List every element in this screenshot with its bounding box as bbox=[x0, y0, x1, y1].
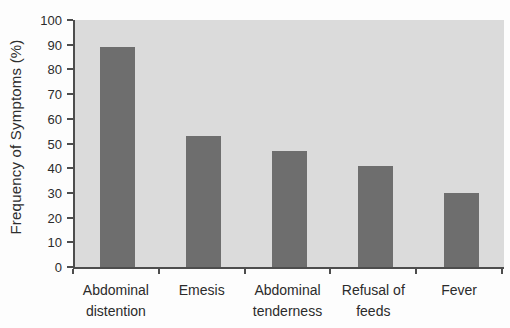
y-tick-mark bbox=[67, 93, 73, 95]
x-tick-mark bbox=[415, 269, 417, 274]
y-tick-label-70: 70 bbox=[22, 88, 62, 101]
x-tick-mark bbox=[72, 269, 74, 274]
y-tick-label-20: 20 bbox=[22, 212, 62, 225]
y-tick-mark bbox=[67, 266, 73, 268]
x-axis-labels: AbdominaldistentionEmesisAbdominaltender… bbox=[73, 280, 502, 326]
y-tick-label-0: 0 bbox=[22, 261, 62, 274]
x-tick-mark bbox=[329, 269, 331, 274]
x-category-label-abdominal-tenderness: Abdominaltenderness bbox=[245, 280, 331, 322]
y-tick-label-50: 50 bbox=[22, 138, 62, 151]
y-tick-label-30: 30 bbox=[22, 187, 62, 200]
y-tick-label-10: 10 bbox=[22, 236, 62, 249]
x-category-label-refusal-of-feeds: Refusal offeeds bbox=[330, 280, 416, 322]
y-tick-label-90: 90 bbox=[22, 39, 62, 52]
y-axis-title: Frequency of Symptoms (%) bbox=[7, 55, 24, 235]
y-tick-label-100: 100 bbox=[22, 14, 62, 27]
bar-emesis bbox=[186, 136, 221, 267]
y-tick-mark bbox=[67, 68, 73, 70]
bar-abdominal-distention bbox=[100, 47, 135, 267]
y-tick-mark bbox=[67, 143, 73, 145]
bar-refusal-of-feeds bbox=[358, 166, 393, 267]
bar-chart-figure: Frequency of Symptoms (%) Abdominaldiste… bbox=[0, 0, 510, 328]
x-category-label-abdominal-distention: Abdominaldistention bbox=[73, 280, 159, 322]
y-tick-mark bbox=[67, 241, 73, 243]
y-tick-mark bbox=[67, 118, 73, 120]
plot-area bbox=[73, 20, 504, 269]
y-tick-mark bbox=[67, 19, 73, 21]
y-tick-label-80: 80 bbox=[22, 63, 62, 76]
y-tick-label-60: 60 bbox=[22, 113, 62, 126]
y-tick-mark bbox=[67, 44, 73, 46]
x-tick-mark bbox=[158, 269, 160, 274]
x-category-label-emesis: Emesis bbox=[159, 280, 245, 301]
x-tick-mark bbox=[501, 269, 503, 274]
bar-abdominal-tenderness bbox=[272, 151, 307, 267]
y-tick-mark bbox=[67, 217, 73, 219]
x-tick-mark bbox=[244, 269, 246, 274]
y-tick-mark bbox=[67, 167, 73, 169]
y-tick-mark bbox=[67, 192, 73, 194]
x-category-label-fever: Fever bbox=[416, 280, 502, 301]
y-tick-label-40: 40 bbox=[22, 162, 62, 175]
bar-fever bbox=[444, 193, 479, 267]
